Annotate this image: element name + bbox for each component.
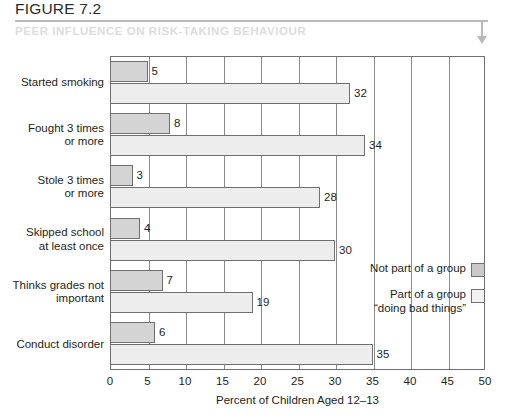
bar [110, 187, 320, 208]
legend-swatch [471, 289, 485, 303]
bar [110, 165, 133, 186]
bar-value-label: 8 [174, 113, 180, 134]
bar [110, 83, 350, 104]
bar-value-label: 30 [339, 240, 352, 261]
bar-value-label: 7 [167, 270, 173, 291]
legend-label: Not part of a group [370, 262, 471, 276]
category-labels: Started smokingFought 3 timesor moreStol… [0, 0, 104, 415]
bar-value-label: 28 [324, 187, 337, 208]
gridline [224, 57, 225, 369]
legend-item: Not part of a group [355, 262, 485, 277]
x-tick-label: 45 [441, 375, 454, 387]
chart-legend: Not part of a groupPart of a group “doin… [355, 262, 485, 326]
bar [110, 322, 155, 343]
x-tick-label: 0 [107, 375, 113, 387]
bar [110, 135, 365, 156]
x-tick-label: 5 [144, 375, 150, 387]
x-tick-label: 20 [254, 375, 267, 387]
bar-value-label: 34 [369, 135, 382, 156]
x-tick-label: 40 [404, 375, 417, 387]
bar-value-label: 35 [377, 344, 390, 365]
category-label: Stole 3 timesor more [0, 174, 104, 201]
bar-value-label: 3 [137, 165, 143, 186]
gridline [336, 57, 337, 369]
category-label: Fought 3 timesor more [0, 122, 104, 149]
legend-item: Part of a group “doing bad things” [355, 288, 485, 315]
x-tick-label: 30 [329, 375, 342, 387]
gridline [299, 57, 300, 369]
bar-value-label: 32 [354, 83, 367, 104]
bar [110, 292, 253, 313]
bar [110, 270, 163, 291]
bar-value-label: 5 [152, 61, 158, 82]
bar [110, 344, 373, 365]
x-tick-label: 50 [479, 375, 492, 387]
bar-value-label: 6 [159, 322, 165, 343]
bar [110, 218, 140, 239]
x-tick-label: 25 [291, 375, 304, 387]
category-label: Skipped schoolat least once [0, 226, 104, 253]
x-axis-title: Percent of Children Aged 12–13 [110, 394, 485, 406]
category-label: Conduct disorder [0, 338, 104, 352]
gridline [261, 57, 262, 369]
bar-value-label: 19 [257, 292, 270, 313]
bar [110, 61, 148, 82]
category-label: Thinks grades notimportant [0, 279, 104, 306]
legend-swatch [471, 263, 485, 277]
bar [110, 113, 170, 134]
legend-label: Part of a group “doing bad things” [374, 288, 471, 315]
category-label: Started smoking [0, 76, 104, 90]
bar [110, 240, 335, 261]
x-tick-label: 15 [216, 375, 229, 387]
x-tick-label: 35 [366, 375, 379, 387]
gridline [186, 57, 187, 369]
x-tick-label: 10 [179, 375, 192, 387]
bar-value-label: 4 [144, 218, 150, 239]
chart-area: 532834328430719635 Started smokingFought… [0, 0, 508, 415]
